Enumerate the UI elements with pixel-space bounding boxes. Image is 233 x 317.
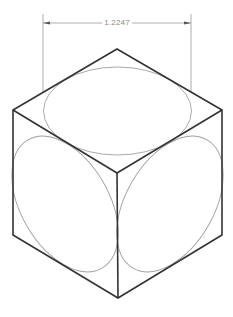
point-marker — [203, 236, 204, 237]
arrowhead-left-icon — [43, 22, 50, 25]
cube-front-edge — [117, 173, 118, 298]
dimension-label: 1.2247 — [102, 18, 132, 28]
arrowhead-right-icon — [184, 22, 191, 25]
right-face-circle — [95, 118, 233, 290]
isometric-drawing — [0, 0, 233, 317]
